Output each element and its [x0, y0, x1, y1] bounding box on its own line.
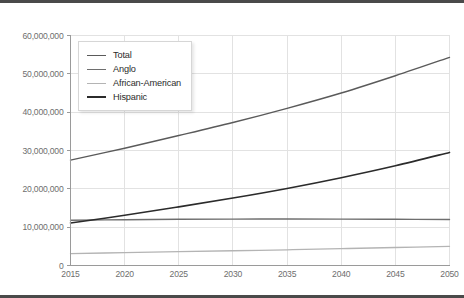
- chart-screenshot: 010,000,00020,000,00030,000,00040,000,00…: [0, 0, 464, 298]
- legend-item: African-American: [87, 76, 181, 90]
- y-axis-tick-labels: 010,000,00020,000,00030,000,00040,000,00…: [22, 31, 63, 271]
- legend-item: Hispanic: [87, 90, 181, 104]
- x-tick-label: 2020: [115, 269, 134, 279]
- legend-line-swatch: [87, 69, 106, 70]
- legend-item-label: Anglo: [113, 64, 136, 74]
- chart-legend: TotalAngloAfrican-AmericanHispanic: [78, 41, 192, 111]
- series-line-african-american: [71, 246, 450, 253]
- x-tick-label: 2015: [61, 269, 80, 279]
- legend-item-label: Total: [113, 50, 132, 60]
- x-tick-label: 2045: [386, 269, 405, 279]
- y-tick-label: 60,000,000: [22, 31, 63, 41]
- x-tick-label: 2040: [332, 269, 351, 279]
- legend-item: Total: [87, 48, 181, 62]
- x-tick-label: 2025: [170, 269, 189, 279]
- x-tick-label: 2050: [440, 269, 459, 279]
- legend-item-label: Hispanic: [113, 92, 147, 102]
- y-tick-label: 10,000,000: [22, 222, 63, 232]
- series-line-hispanic: [71, 152, 450, 223]
- y-tick-label: 30,000,000: [22, 146, 63, 156]
- x-tick-label: 2035: [278, 269, 297, 279]
- legend-item-label: African-American: [113, 78, 181, 88]
- x-tick-label: 2030: [224, 269, 243, 279]
- y-tick-label: 40,000,000: [22, 107, 63, 117]
- legend-line-swatch: [87, 55, 106, 56]
- legend-line-swatch: [87, 83, 106, 84]
- line-chart: 010,000,00020,000,00030,000,00040,000,00…: [0, 3, 464, 295]
- chart-svg: 010,000,00020,000,00030,000,00040,000,00…: [0, 3, 464, 295]
- y-tick-label: 20,000,000: [22, 184, 63, 194]
- x-axis-tick-labels: 20152020202520302035204020452050: [61, 269, 459, 279]
- legend-item: Anglo: [87, 62, 181, 76]
- y-tick-label: 50,000,000: [22, 69, 63, 79]
- series-line-anglo: [71, 219, 450, 220]
- legend-line-swatch: [87, 96, 106, 98]
